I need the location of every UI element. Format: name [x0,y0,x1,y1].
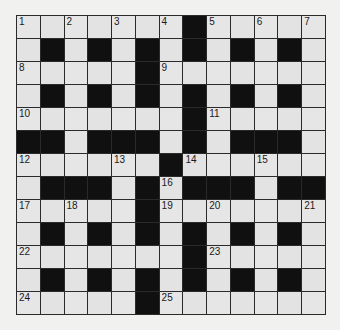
answer-cell[interactable] [207,292,230,314]
answer-cell[interactable] [302,39,325,61]
answer-cell[interactable] [65,108,88,130]
answer-cell[interactable]: 3 [112,16,135,38]
answer-cell[interactable] [160,223,183,245]
answer-cell[interactable] [88,16,111,38]
answer-cell[interactable] [41,154,64,176]
answer-cell[interactable] [65,269,88,291]
answer-cell[interactable] [41,108,64,130]
answer-cell[interactable] [207,269,230,291]
answer-cell[interactable] [17,269,40,291]
answer-cell[interactable] [231,16,254,38]
answer-cell[interactable] [255,223,278,245]
answer-cell[interactable] [302,154,325,176]
answer-cell[interactable] [160,131,183,153]
answer-cell[interactable] [255,177,278,199]
answer-cell[interactable] [65,131,88,153]
answer-cell[interactable] [112,39,135,61]
answer-cell[interactable] [112,85,135,107]
answer-cell[interactable] [17,39,40,61]
answer-cell[interactable] [278,246,301,268]
answer-cell[interactable]: 12 [17,154,40,176]
answer-cell[interactable] [255,39,278,61]
answer-cell[interactable] [207,39,230,61]
answer-cell[interactable]: 16 [160,177,183,199]
answer-cell[interactable] [136,16,159,38]
answer-cell[interactable] [255,85,278,107]
answer-cell[interactable] [160,85,183,107]
answer-cell[interactable] [17,177,40,199]
answer-cell[interactable] [207,131,230,153]
answer-cell[interactable] [255,200,278,222]
answer-cell[interactable]: 6 [255,16,278,38]
answer-cell[interactable] [112,62,135,84]
answer-cell[interactable] [160,269,183,291]
answer-cell[interactable]: 21 [302,200,325,222]
answer-cell[interactable] [302,223,325,245]
answer-cell[interactable] [255,246,278,268]
answer-cell[interactable] [65,154,88,176]
answer-cell[interactable]: 24 [17,292,40,314]
answer-cell[interactable] [302,131,325,153]
answer-cell[interactable] [231,154,254,176]
answer-cell[interactable] [160,39,183,61]
answer-cell[interactable]: 1 [17,16,40,38]
answer-cell[interactable] [231,200,254,222]
answer-cell[interactable] [41,16,64,38]
answer-cell[interactable] [41,292,64,314]
answer-cell[interactable] [17,223,40,245]
answer-cell[interactable] [255,62,278,84]
answer-cell[interactable] [302,269,325,291]
answer-cell[interactable] [41,200,64,222]
answer-cell[interactable]: 2 [65,16,88,38]
answer-cell[interactable]: 22 [17,246,40,268]
answer-cell[interactable] [278,154,301,176]
answer-cell[interactable] [302,85,325,107]
answer-cell[interactable]: 20 [207,200,230,222]
answer-cell[interactable] [278,108,301,130]
answer-cell[interactable] [231,108,254,130]
answer-cell[interactable] [112,200,135,222]
answer-cell[interactable] [231,292,254,314]
answer-cell[interactable]: 13 [112,154,135,176]
answer-cell[interactable] [17,85,40,107]
answer-cell[interactable]: 5 [207,16,230,38]
answer-cell[interactable] [112,246,135,268]
answer-cell[interactable] [231,246,254,268]
answer-cell[interactable] [231,62,254,84]
answer-cell[interactable] [255,292,278,314]
answer-cell[interactable] [278,16,301,38]
answer-cell[interactable] [160,108,183,130]
answer-cell[interactable] [41,246,64,268]
answer-cell[interactable] [41,62,64,84]
answer-cell[interactable]: 17 [17,200,40,222]
answer-cell[interactable] [65,85,88,107]
answer-cell[interactable]: 7 [302,16,325,38]
answer-cell[interactable] [255,108,278,130]
answer-cell[interactable] [65,246,88,268]
answer-cell[interactable] [88,154,111,176]
answer-cell[interactable] [88,62,111,84]
answer-cell[interactable]: 19 [160,200,183,222]
answer-cell[interactable] [88,108,111,130]
answer-cell[interactable] [207,154,230,176]
answer-cell[interactable] [65,62,88,84]
answer-cell[interactable] [207,223,230,245]
answer-cell[interactable]: 11 [207,108,230,130]
answer-cell[interactable] [207,62,230,84]
answer-cell[interactable] [112,292,135,314]
answer-cell[interactable] [160,246,183,268]
answer-cell[interactable] [112,223,135,245]
answer-cell[interactable]: 9 [160,62,183,84]
answer-cell[interactable] [88,292,111,314]
answer-cell[interactable] [88,200,111,222]
answer-cell[interactable] [183,292,206,314]
answer-cell[interactable] [65,39,88,61]
answer-cell[interactable] [136,246,159,268]
answer-cell[interactable] [278,200,301,222]
answer-cell[interactable] [136,108,159,130]
answer-cell[interactable]: 10 [17,108,40,130]
answer-cell[interactable] [302,246,325,268]
answer-cell[interactable]: 25 [160,292,183,314]
answer-cell[interactable]: 15 [255,154,278,176]
answer-cell[interactable] [112,177,135,199]
